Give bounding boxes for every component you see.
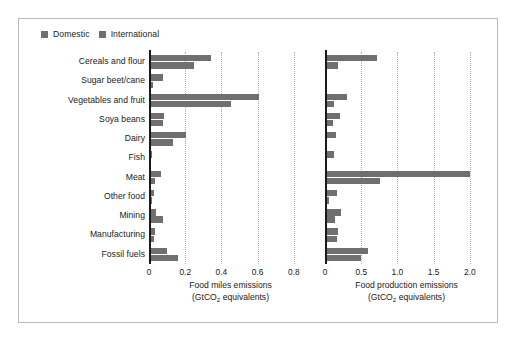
chart-plots: Cereals and flourSugar beet/caneVegetabl… xyxy=(19,52,499,322)
bar-international xyxy=(325,62,338,68)
category-axis-labels: Cereals and flourSugar beet/caneVegetabl… xyxy=(25,52,145,264)
category-label: Cereals and flour xyxy=(79,52,145,71)
bar-row xyxy=(149,225,312,244)
category-label: Fish xyxy=(129,148,145,167)
bar-row xyxy=(325,52,488,71)
x-tick-label: 0 xyxy=(323,267,328,277)
zero-axis-line xyxy=(325,50,327,264)
unit-suffix: equivalents) xyxy=(220,292,269,302)
bar-domestic xyxy=(325,248,368,254)
bar-domestic xyxy=(325,113,340,119)
bar-domestic xyxy=(325,171,470,177)
bar-row xyxy=(149,187,312,206)
category-label: Soya beans xyxy=(99,110,145,129)
x-axis-title-line2: (GtCO2 equivalents) xyxy=(129,292,332,304)
bar-domestic xyxy=(149,94,259,100)
panel-food-production: 00.51.01.52.0 Food production emissions … xyxy=(325,52,488,302)
x-axis-ticks-food-production: 00.51.01.52.0 xyxy=(325,264,488,280)
bar-row xyxy=(325,91,488,110)
unit-prefix: (GtCO xyxy=(192,292,217,302)
category-label: Meat xyxy=(126,168,145,187)
x-tick-label: 0.2 xyxy=(179,267,191,277)
bar-row xyxy=(325,206,488,225)
category-label: Fossil fuels xyxy=(101,245,145,264)
bar-row xyxy=(325,129,488,148)
x-tick-label: 2.0 xyxy=(464,267,476,277)
bar-row xyxy=(149,168,312,187)
bar-domestic xyxy=(325,209,341,215)
plot-area-food-miles xyxy=(149,52,312,264)
category-label: Sugar beet/cane xyxy=(81,71,145,90)
bar-international xyxy=(325,178,380,184)
bar-domestic xyxy=(149,248,167,254)
x-axis-ticks-food-miles: 00.20.40.60.8 xyxy=(149,264,312,280)
x-tick-label: 0.4 xyxy=(216,267,228,277)
bar-row xyxy=(149,206,312,225)
bar-domestic xyxy=(325,190,337,196)
chart-legend: Domestic International xyxy=(41,29,159,39)
x-tick-label: 0.6 xyxy=(252,267,264,277)
category-label: Manufacturing xyxy=(90,225,145,244)
bar-international xyxy=(149,62,194,68)
unit-subscript: 2 xyxy=(393,296,396,303)
square-marker-icon xyxy=(41,31,48,38)
bar-domestic xyxy=(149,171,161,177)
bar-row xyxy=(149,52,312,71)
bar-domestic xyxy=(149,113,164,119)
bar-international xyxy=(149,255,178,261)
x-tick-label: 0.5 xyxy=(355,267,367,277)
bar-domestic xyxy=(325,132,336,138)
bar-row xyxy=(325,225,488,244)
unit-prefix: (GtCO xyxy=(368,292,393,302)
panel-food-miles: 00.20.40.60.8 Food miles emissions (GtCO… xyxy=(149,52,312,302)
bar-international xyxy=(149,216,163,222)
x-tick-label: 1.0 xyxy=(392,267,404,277)
bar-international xyxy=(149,139,173,145)
category-label: Dairy xyxy=(125,129,145,148)
bar-international xyxy=(325,236,337,242)
bar-row xyxy=(325,168,488,187)
plot-area-food-production xyxy=(325,52,488,264)
legend-entry-domestic[interactable]: Domestic xyxy=(41,29,90,39)
category-label: Other food xyxy=(104,187,145,206)
square-marker-icon xyxy=(99,31,106,38)
bar-row xyxy=(149,110,312,129)
chart-figure: Domestic International Cereals and flour… xyxy=(18,18,498,323)
bar-domestic xyxy=(325,94,347,100)
unit-suffix: equivalents) xyxy=(396,292,445,302)
bar-domestic xyxy=(149,55,211,61)
category-label: Vegetables and fruit xyxy=(68,91,145,110)
unit-subscript: 2 xyxy=(217,296,220,303)
x-axis-title-food-miles: Food miles emissions (GtCO2 equivalents) xyxy=(129,280,332,303)
bar-international xyxy=(149,120,163,126)
bar-international xyxy=(325,255,361,261)
x-tick-label: 0.8 xyxy=(288,267,300,277)
legend-label-international: International xyxy=(111,29,160,39)
x-tick-label: 1.5 xyxy=(428,267,440,277)
bar-row xyxy=(149,148,312,167)
legend-entry-international[interactable]: International xyxy=(99,29,160,39)
bar-row xyxy=(149,71,312,90)
bar-row xyxy=(325,245,488,264)
bar-international xyxy=(149,101,231,107)
x-axis-title-line1: Food miles emissions xyxy=(129,280,332,292)
bar-row xyxy=(325,187,488,206)
bar-domestic xyxy=(325,55,377,61)
zero-axis-line xyxy=(149,50,151,264)
category-label: Mining xyxy=(119,206,145,225)
x-axis-title-food-production: Food production emissions (GtCO2 equival… xyxy=(305,280,508,303)
bar-domestic xyxy=(149,132,186,138)
bar-row xyxy=(325,148,488,167)
bar-row xyxy=(149,245,312,264)
bar-domestic xyxy=(149,74,163,80)
bar-domestic xyxy=(325,228,338,234)
x-axis-title-line1: Food production emissions xyxy=(305,280,508,292)
x-tick-label: 0 xyxy=(147,267,152,277)
bar-row xyxy=(325,71,488,90)
x-axis-title-line2: (GtCO2 equivalents) xyxy=(305,292,508,304)
bar-row xyxy=(149,91,312,110)
legend-label-domestic: Domestic xyxy=(53,29,90,39)
bar-row xyxy=(149,129,312,148)
bar-row xyxy=(325,110,488,129)
